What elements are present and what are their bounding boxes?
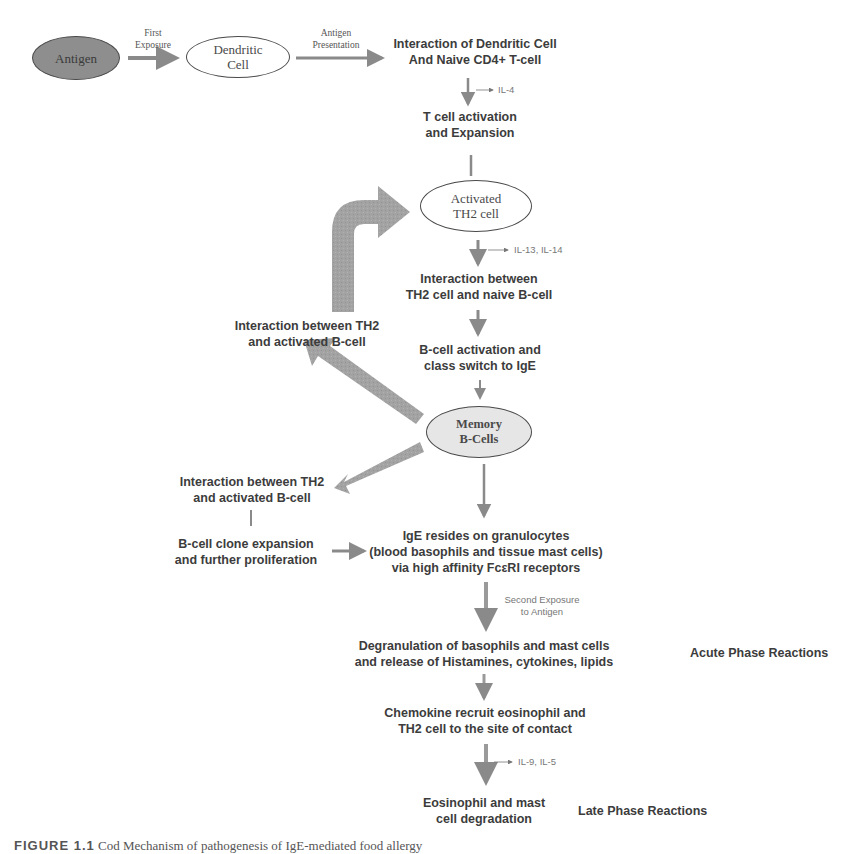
dendritic-cell-node: Dendritic Cell (186, 36, 290, 78)
figure-caption-text: Cod Mechanism of pathogenesis of IgE-med… (98, 838, 422, 853)
interaction-th2-activated-b-upper-node: Interaction between TH2 and activated B-… (222, 318, 392, 350)
arrow-memory-to-lower-interaction (334, 442, 424, 494)
memory-bcells-node: Memory B-Cells (426, 406, 532, 458)
interaction-th2-naive-b-node: Interaction between TH2 cell and naive B… (395, 271, 563, 303)
il4-label: IL-4 (498, 84, 514, 95)
antigen-label: Antigen (55, 51, 97, 66)
bcell-activation-node: B-cell activation and class switch to Ig… (405, 342, 555, 374)
activated-th2-node: Activated TH2 cell (420, 180, 532, 232)
antigen-node: Antigen (32, 36, 120, 80)
ige-granulocytes-node: IgE resides on granulocytes (blood basop… (368, 528, 604, 576)
tcell-activation-node: T cell activation and Expansion (410, 109, 530, 141)
chemokine-recruit-node: Chemokine recruit eosinophil and TH2 cel… (380, 705, 590, 737)
second-exposure-label: Second Exposure to Antigen (494, 594, 590, 618)
first-exposure-label: First Exposure (125, 27, 181, 51)
bcell-clone-expansion-node: B-cell clone expansion and further proli… (156, 536, 336, 568)
il13-il14-label: IL-13, IL-14 (514, 244, 563, 255)
interaction-th2-activated-b-lower-node: Interaction between TH2 and activated B-… (162, 474, 342, 506)
figure-number: FIGURE 1.1 (14, 838, 95, 853)
figure-caption: FIGURE 1.1 Cod Mechanism of pathogenesis… (14, 838, 422, 854)
late-phase-label: Late Phase Reactions (578, 804, 707, 818)
antigen-presentation-label: Antigen Presentation (296, 27, 376, 51)
il9-il5-label: IL-9, IL-5 (518, 756, 556, 767)
acute-phase-label: Acute Phase Reactions (690, 646, 828, 660)
interaction-dc-tcell-node: Interaction of Dendritic Cell And Naive … (380, 36, 570, 68)
eosinophil-degradation-node: Eosinophil and mast cell degradation (414, 795, 554, 827)
degranulation-node: Degranulation of basophils and mast cell… (352, 638, 616, 670)
